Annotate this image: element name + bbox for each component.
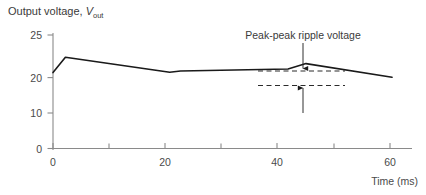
y-tick-label-20: 20 (30, 72, 42, 84)
x-axis-title: Time (ms) (371, 175, 418, 187)
peak-peak-ripple-voltage-label: Peak-peak ripple voltage (245, 29, 361, 41)
y-axis-title-subscript: out (93, 11, 104, 20)
y-axis-title-main: Output voltage, (8, 5, 86, 17)
x-tick-label-20: 20 (159, 156, 171, 168)
output-voltage-ripple-chart: 25 20 10 0 0 20 40 60 Time (ms) Output v… (0, 0, 426, 195)
y-axis-title: Output voltage, Vout (8, 5, 104, 20)
y-tick-label-25: 25 (30, 29, 42, 41)
x-tick-label-60: 60 (384, 156, 396, 168)
output-voltage-waveform (53, 57, 392, 77)
y-tick-label-10: 10 (30, 107, 42, 119)
x-axis-ticks (53, 143, 390, 149)
y-axis-ticks (48, 35, 54, 149)
x-tick-label-0: 0 (50, 156, 56, 168)
y-tick-label-0: 0 (36, 143, 42, 155)
chart-figure: 25 20 10 0 0 20 40 60 Time (ms) Output v… (0, 0, 426, 195)
x-tick-label-40: 40 (271, 156, 283, 168)
